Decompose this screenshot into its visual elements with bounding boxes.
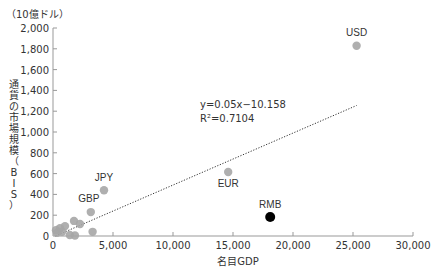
point [88, 228, 96, 236]
point-label-rmb: RMB [259, 199, 282, 210]
points-group [52, 41, 361, 239]
y-tick-label: 400 [30, 189, 49, 200]
trendline-equation: y=0.05x−10.158 [200, 99, 286, 110]
trendline-r2: R²=0.7104 [200, 113, 254, 124]
point-usd [352, 41, 360, 49]
y-axis-title-char: の [9, 101, 19, 112]
y-axis-title-char: I [13, 178, 16, 189]
y-tick-label: 0 [43, 231, 49, 242]
y-tick-label: 800 [30, 148, 49, 159]
x-axis-title: 名目GDP [217, 255, 258, 267]
y-axis-title-char: B [11, 167, 18, 178]
point-label-eur: EUR [218, 178, 239, 189]
y-tick-label: 200 [30, 210, 49, 221]
point-rmb [265, 212, 275, 222]
y-axis-title-char: S [11, 189, 17, 200]
point-label-jpy: JPY [95, 172, 114, 183]
y-axis-title-char: ） [9, 200, 19, 211]
y-tick-label: 1,800 [20, 44, 49, 55]
scatter-chart: （10億ドル） 通貨の市場規模（BIS） 名目GDP 05,00010,0001… [0, 0, 433, 270]
x-tick-label: 15,000 [216, 240, 251, 251]
point-jpy [100, 186, 108, 194]
x-tick-label: 20,000 [276, 240, 311, 251]
y-axis-title-char: 市 [9, 111, 19, 123]
y-tick-label: 1,400 [20, 85, 49, 96]
point [76, 220, 84, 228]
trendline-group [55, 105, 356, 236]
y-axis-title-char: 通 [9, 79, 19, 90]
x-tick-label: 10,000 [156, 240, 191, 251]
point-gbp [87, 208, 95, 216]
x-tick-label: 25,000 [336, 240, 371, 251]
y-axis-title-char: （ [9, 156, 19, 167]
y-axis-title: 通貨の市場規模（BIS） [9, 79, 19, 211]
y-tick-label: 1,000 [20, 127, 49, 138]
y-tick-label: 1,600 [20, 65, 49, 76]
y-axis-title-char: 規 [9, 134, 19, 145]
y-axis-title-char: 模 [9, 145, 19, 156]
trendline [55, 105, 356, 236]
point [53, 229, 61, 237]
point [71, 231, 79, 239]
x-tick-label: 30,000 [396, 240, 431, 251]
y-axis-title-char: 貨 [9, 89, 19, 101]
y-tick-label: 600 [30, 169, 49, 180]
x-tick-label: 5,000 [99, 240, 128, 251]
x-tick-label: 0 [50, 240, 56, 251]
point-eur [224, 168, 232, 176]
y-axis-title-char: 場 [9, 122, 19, 134]
axes: 05,00010,00015,00020,00025,00030,0000200… [20, 23, 430, 251]
point-label-gbp: GBP [78, 193, 99, 204]
unit-label: （10億ドル） [6, 8, 69, 20]
point-label-usd: USD [346, 27, 367, 38]
y-tick-label: 1,200 [20, 106, 49, 117]
y-tick-label: 2,000 [20, 23, 49, 34]
